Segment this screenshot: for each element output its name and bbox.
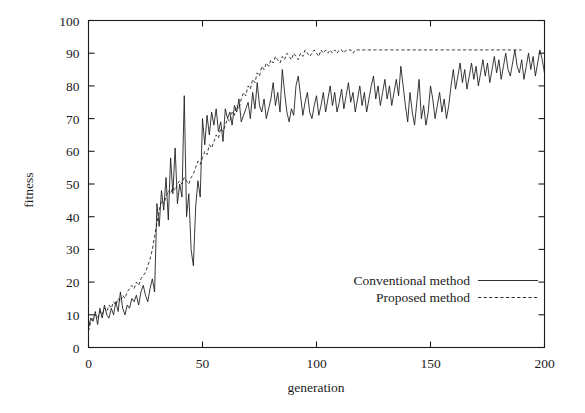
x-tick-label: 150 (420, 356, 441, 371)
x-tick-label: 200 (534, 356, 555, 371)
y-axis-title: fitness (21, 172, 36, 207)
y-tick-label: 40 (66, 210, 80, 225)
figure-container: 050100150200 0102030405060708090100 gene… (0, 0, 585, 413)
x-axis-tick-labels: 050100150200 (85, 356, 555, 371)
x-axis-title: generation (288, 380, 345, 395)
series-proposed-method (89, 50, 522, 331)
y-tick-label: 80 (66, 79, 80, 94)
y-tick-label: 60 (66, 144, 80, 159)
y-tick-label: 20 (66, 275, 80, 290)
legend-label-conventional-method: Conventional method (353, 273, 470, 288)
series-conventional-method (89, 50, 545, 328)
legend: Conventional method Proposed method (353, 273, 538, 305)
x-tick-label: 0 (85, 356, 92, 371)
legend-label-proposed-method: Proposed method (376, 290, 470, 305)
y-tick-label: 0 (73, 341, 80, 356)
x-tick-label: 100 (306, 356, 327, 371)
y-tick-label: 30 (66, 242, 80, 257)
y-tick-label: 100 (59, 14, 80, 29)
y-tick-label: 70 (66, 112, 80, 127)
y-tick-label: 50 (66, 177, 80, 192)
y-tick-label: 90 (66, 46, 80, 61)
x-tick-label: 50 (196, 356, 210, 371)
y-axis-tick-labels: 0102030405060708090100 (59, 14, 80, 356)
fitness-vs-generation-chart: 050100150200 0102030405060708090100 gene… (0, 0, 585, 413)
y-tick-label: 10 (66, 308, 80, 323)
